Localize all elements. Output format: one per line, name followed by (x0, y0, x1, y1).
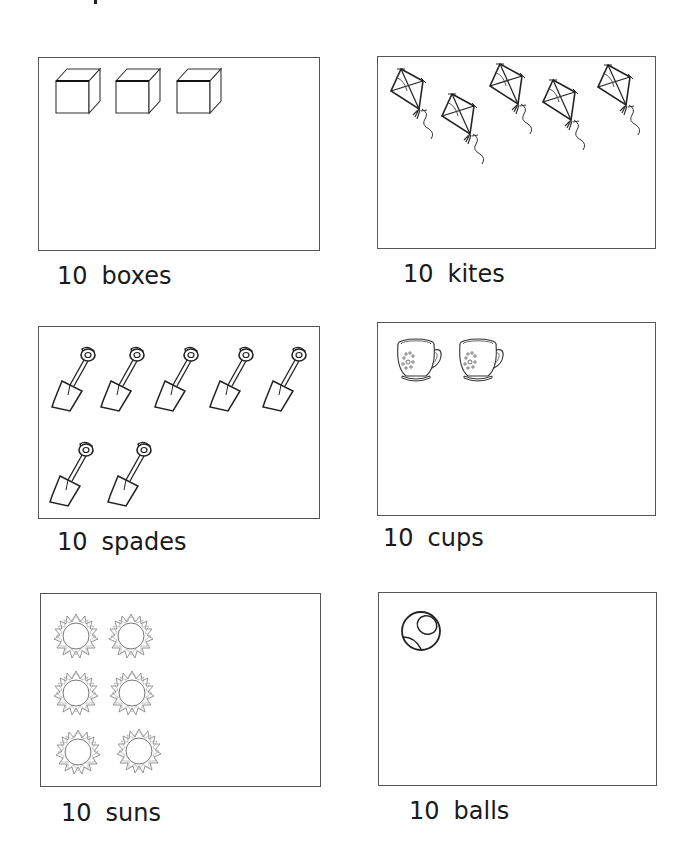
sun-icon (56, 730, 100, 774)
label-suns: 10suns (61, 801, 161, 825)
cup-icon (460, 339, 503, 381)
panel-kites[interactable] (377, 56, 656, 249)
panel-cups[interactable] (377, 322, 656, 516)
cube-icon-group (39, 58, 321, 252)
label-spades: 10spades (57, 530, 187, 554)
cube-icon (56, 69, 100, 113)
header-remnant (94, 0, 97, 4)
sun-icon-group (41, 594, 322, 788)
noun: cups (428, 524, 484, 552)
kite-icon (598, 65, 640, 135)
count-number: 10 (57, 528, 88, 556)
spade-icon (108, 442, 151, 506)
label-boxes: 10boxes (57, 264, 171, 288)
cup-icon (398, 339, 441, 381)
sun-icon (109, 614, 153, 658)
spade-icon (50, 442, 93, 506)
label-cups: 10cups (383, 526, 484, 550)
kite-icon (543, 80, 585, 150)
panel-spades[interactable] (38, 326, 320, 519)
spade-icon (210, 347, 253, 411)
count-number: 10 (383, 524, 414, 552)
spade-icon (101, 347, 144, 411)
cube-icon (116, 69, 160, 113)
panel-boxes[interactable] (38, 57, 320, 251)
kite-icon-group (378, 57, 657, 250)
sun-icon (110, 671, 154, 715)
noun: spades (102, 528, 187, 556)
panel-balls[interactable] (378, 592, 657, 786)
spade-icon (52, 347, 95, 411)
ball-icon-group (379, 593, 658, 787)
count-number: 10 (57, 262, 88, 290)
kite-icon (442, 94, 484, 164)
sun-icon (54, 614, 98, 658)
spade-icon (263, 347, 306, 411)
noun: balls (454, 797, 510, 825)
noun: kites (448, 260, 505, 288)
count-number: 10 (403, 260, 434, 288)
kite-icon (490, 64, 532, 134)
spade-icon (155, 347, 198, 411)
count-number: 10 (409, 797, 440, 825)
cube-icon (177, 69, 221, 113)
ball-icon (402, 612, 440, 650)
sun-icon (117, 729, 161, 773)
cup-icon-group (378, 323, 657, 517)
count-number: 10 (61, 799, 92, 827)
label-balls: 10balls (409, 799, 509, 823)
label-kites: 10kites (403, 262, 505, 286)
spade-icon-group (39, 327, 321, 520)
sun-icon (54, 671, 98, 715)
panel-suns[interactable] (40, 593, 321, 787)
noun: boxes (102, 262, 172, 290)
noun: suns (106, 799, 161, 827)
kite-icon (391, 69, 433, 139)
